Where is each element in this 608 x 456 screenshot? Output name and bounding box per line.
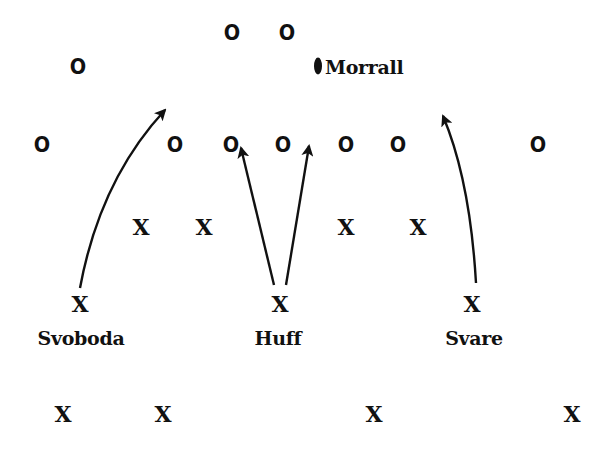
svare-route-arrow [443, 116, 476, 283]
huff-left-route-arrow [241, 148, 274, 285]
defense-player: X [365, 403, 382, 425]
player-label-svoboda: Svoboda [38, 327, 125, 349]
offense-player: O [530, 135, 546, 156]
defense-player: X [154, 403, 171, 425]
defense-player-huff: X [271, 293, 288, 315]
offense-player: O [224, 23, 240, 44]
svoboda-route-arrow [80, 110, 165, 288]
defense-player: X [337, 216, 354, 238]
defense-player: X [409, 216, 426, 238]
defense-player: X [132, 216, 149, 238]
defense-player-svoboda: X [71, 293, 88, 315]
offense-player: O [34, 135, 50, 156]
offense-player: O [275, 135, 291, 156]
huff-right-route-arrow [286, 146, 309, 285]
defense-player-svare: X [463, 293, 480, 315]
offense-player: O [338, 135, 354, 156]
play-diagram: O O O O O O O O O O Morrall X X X X X Sv… [0, 0, 608, 456]
football-icon [313, 57, 323, 75]
player-label-huff: Huff [255, 327, 302, 349]
offense-player: O [70, 57, 86, 78]
offense-player: O [390, 135, 406, 156]
offense-player: O [167, 135, 183, 156]
route-arrows [0, 0, 608, 456]
offense-player: O [279, 23, 295, 44]
defense-player: X [563, 403, 580, 425]
defense-player: X [54, 403, 71, 425]
offense-player: O [223, 135, 239, 156]
quarterback-label: Morrall [325, 56, 403, 78]
player-label-svare: Svare [445, 327, 503, 349]
defense-player: X [195, 216, 212, 238]
